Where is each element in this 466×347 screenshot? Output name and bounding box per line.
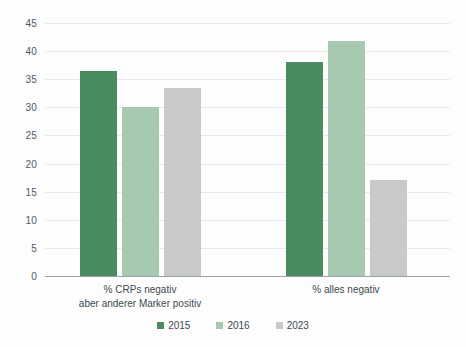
bar-2016-group2 [328,41,365,276]
legend-item-2016[interactable]: 2016 [216,320,249,331]
y-axis-tick-label: 15 [25,186,37,197]
legend-label: 2023 [287,320,309,331]
category-label-line-1: % CRPs negativ [30,283,250,297]
y-axis-tick-label: 40 [25,46,37,57]
y-axis-tick-label: 0 [31,271,37,282]
legend-label: 2016 [227,320,249,331]
y-axis-tick-label: 35 [25,74,37,85]
bar-2023-group1 [164,88,201,276]
legend-item-2023[interactable]: 2023 [276,320,309,331]
legend-label: 2015 [168,320,190,331]
category-label-1: % CRPs negativaber anderer Marker positi… [30,283,250,311]
bar-chart: 051015202530354045 % CRPs negativaber an… [0,0,466,347]
plot-area [45,23,450,276]
chart-legend: 201520162023 [0,320,466,331]
bar-2015-group1 [80,71,117,276]
x-axis-line [45,276,450,277]
category-label-2: % alles negativ [236,283,456,297]
bar-2015-group2 [286,62,323,276]
legend-swatch-icon [157,322,164,329]
gridline [45,51,450,52]
category-label-line-2: aber anderer Marker positiv [30,297,250,311]
y-axis-tick-label: 30 [25,102,37,113]
y-axis-tick-label: 20 [25,158,37,169]
y-axis-tick-label: 10 [25,214,37,225]
legend-item-2015[interactable]: 2015 [157,320,190,331]
y-axis-tick-label: 5 [31,242,37,253]
category-label-line-1: % alles negativ [236,283,456,297]
y-axis-tick-label: 45 [25,18,37,29]
legend-swatch-icon [216,322,223,329]
legend-swatch-icon [276,322,283,329]
y-axis-tick-label: 25 [25,130,37,141]
gridline [45,23,450,24]
bar-2023-group2 [370,180,407,276]
bar-2016-group1 [122,107,159,276]
